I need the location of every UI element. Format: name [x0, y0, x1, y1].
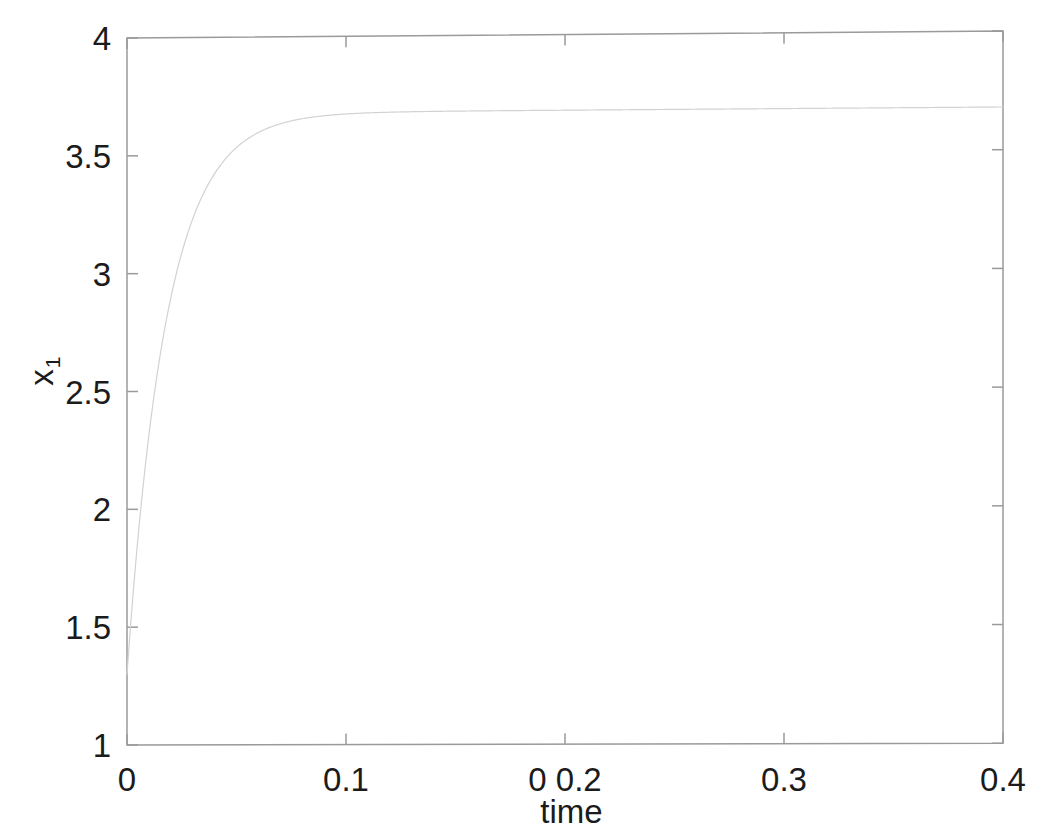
axis-box — [127, 31, 1003, 745]
y-tick-label: 3 — [0, 257, 111, 290]
x-tick-label: 0.3 — [761, 763, 807, 796]
x-tick-label: 0 — [118, 763, 136, 796]
y-tick-label: 2 — [0, 493, 111, 526]
y-axis-title: x1 — [25, 311, 63, 431]
plot-area — [127, 38, 1003, 745]
x-tick-label: 0.4 — [980, 763, 1026, 796]
x-tick-label: 0 0.2 — [528, 763, 601, 796]
plot-svg — [127, 38, 1003, 745]
y-axis-title-subscript: 1 — [41, 356, 64, 368]
data-series-group — [127, 107, 1003, 674]
y-tick-label: 1.5 — [0, 611, 111, 644]
y-tick-label: 4 — [0, 22, 111, 55]
y-axis-title-base: x — [23, 369, 60, 386]
x-tick-label: 0.1 — [323, 763, 369, 796]
x-axis-title: time — [0, 795, 1053, 828]
y-tick-label: 1 — [0, 729, 111, 762]
figure-canvas: 11.522.533.54 00.10 0.20.30.4 time x1 — [0, 0, 1053, 840]
x-axis-title-text: time — [540, 793, 602, 830]
y-tick-label: 3.5 — [0, 139, 111, 172]
axis-ticks — [127, 31, 1003, 745]
